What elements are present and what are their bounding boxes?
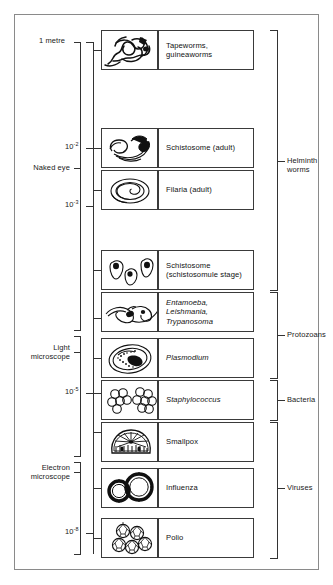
group-tick-bacteria [277, 400, 285, 401]
flagellate-protozoa-icon [102, 293, 158, 332]
illustration-box-influenza [101, 468, 158, 508]
scale-label-10-2: 10-2 [65, 142, 79, 151]
scale-label-10-3-mantissa: 10 [65, 200, 74, 209]
group-bracket-helminth [277, 30, 278, 290]
method-label-light-microscope: Light microscope [8, 343, 70, 361]
name-box-polio: Polio [158, 518, 254, 558]
organism-name-schistosome-adult: Schistosome (adult) [166, 143, 235, 152]
scale-label-10-8-exponent: -8 [74, 526, 79, 532]
connector-filaria [93, 190, 101, 191]
brick-virion-icon [102, 423, 158, 462]
organism-name-plasmodium: Plasmodium [166, 353, 209, 362]
group-label-protozoans: Protozoans [287, 330, 333, 339]
illustration-box-schistosome-adult [101, 128, 158, 168]
scale-label-10-2-exponent: -2 [74, 141, 79, 147]
connector-influenza [93, 488, 101, 489]
group-tick-helminth [277, 161, 285, 162]
connector-tapeworms [93, 50, 101, 51]
scale-label-10-5-mantissa: 10 [65, 387, 74, 396]
organism-name-influenza: Influenza [166, 483, 198, 492]
name-box-tapeworms: Tapeworms, guineaworms [158, 30, 254, 70]
name-box-entamoeba: Entamoeba, Leishmania, Trypanosoma [158, 292, 254, 332]
organism-name-smallpox: Smallpox [166, 437, 198, 446]
spiral-worm-icon [102, 171, 158, 210]
method-bracket-naked-eye-end [74, 330, 81, 331]
group-label-bacteria: Bacteria [287, 395, 333, 404]
illustration-box-filaria [101, 170, 158, 210]
enveloped-virion-icon [102, 469, 158, 508]
name-box-schistosomule: Schistosome (schistosomule stage) [158, 250, 254, 290]
organism-name-staphylococcus: Staphylococcus [166, 395, 221, 404]
organism-name-entamoeba: Entamoeba, Leishmania, Trypanosoma [166, 298, 213, 326]
group-tick-viruses [277, 488, 285, 489]
method-bracket-electron-start [74, 462, 81, 463]
illustration-box-smallpox [101, 422, 158, 462]
connector-smallpox [93, 432, 101, 433]
scale-label-10-3: 10-3 [65, 200, 79, 209]
group-bracket-helminth-bottom [270, 290, 278, 291]
group-bracket-helminth-top [270, 30, 278, 31]
scale-axis-line [93, 42, 94, 554]
schistosomule-cells-icon [102, 251, 158, 290]
tangled-worm-icon [102, 31, 158, 70]
method-bracket-light-start [74, 336, 81, 337]
organism-name-schistosomule: Schistosome (schistosomule stage) [166, 261, 242, 280]
scale-tick-1m [86, 42, 94, 43]
method-label-naked-eye: Naked eye [8, 163, 70, 172]
scale-label-1m: 1 metre [39, 36, 65, 45]
illustration-box-schistosomule [101, 250, 158, 290]
name-box-influenza: Influenza [158, 468, 254, 508]
coccus-cluster-icon [102, 381, 158, 420]
name-box-smallpox: Smallpox [158, 422, 254, 462]
method-bracket-light-end [74, 456, 81, 457]
illustration-box-tapeworms [101, 30, 158, 70]
method-bracket-electron-end [74, 554, 81, 555]
illustration-box-polio [101, 518, 158, 558]
icosahedral-virion-icon [102, 519, 158, 558]
group-bracket-viruses-top [270, 422, 278, 423]
group-bracket-bacteria-top [270, 380, 278, 381]
infected-red-cell-icon [102, 339, 158, 378]
group-bracket-protozoans-bottom [270, 378, 278, 379]
connector-plasmodium [93, 358, 101, 359]
illustration-box-plasmodium [101, 338, 158, 378]
illustration-box-staphylococcus [101, 380, 158, 420]
figure-canvas: Naked eye Light microscope Electron micr… [0, 0, 333, 585]
group-bracket-protozoans-top [270, 292, 278, 293]
organism-name-filaria: Filaria (adult) [166, 185, 212, 194]
scale-tick-10-3 [86, 206, 94, 207]
method-bracket-electron-microscope [80, 462, 81, 554]
scale-tick-10-8 [86, 533, 94, 534]
scale-label-10-5-exponent: -5 [74, 386, 79, 392]
scale-label-10-3-exponent: -3 [74, 199, 79, 205]
scale-label-10-2-mantissa: 10 [65, 142, 74, 151]
name-box-staphylococcus: Staphylococcus [158, 380, 254, 420]
name-box-plasmodium: Plasmodium [158, 338, 254, 378]
method-bracket-light-microscope [80, 336, 81, 456]
connector-polio [93, 538, 101, 539]
group-bracket-bacteria-bottom [270, 420, 278, 421]
illustration-box-trypanosoma [101, 292, 158, 332]
connector-schistosome-adult [93, 148, 101, 149]
organism-name-tapeworms: Tapeworms, guineaworms [166, 41, 212, 60]
scale-label-10-8-mantissa: 10 [65, 527, 74, 536]
name-box-schistosome-adult: Schistosome (adult) [158, 128, 254, 168]
group-tick-protozoans [277, 335, 285, 336]
method-tick-light [74, 352, 81, 353]
method-label-electron-microscope: Electron microscope [4, 463, 70, 481]
group-bracket-viruses-bottom [270, 558, 278, 559]
method-bracket-top-cap [74, 42, 81, 43]
name-box-filaria: Filaria (adult) [158, 170, 254, 210]
coiled-fluke-icon [102, 129, 158, 168]
method-bracket-naked-eye [80, 42, 81, 330]
connector-staphylococcus [93, 393, 101, 394]
group-label-helminth: Helminth worms [287, 156, 333, 174]
scale-label-10-5: 10-5 [65, 387, 79, 396]
connector-schistosomule [93, 270, 101, 271]
method-tick-naked-eye [74, 168, 81, 169]
connector-entamoeba [93, 318, 101, 319]
group-bracket-viruses [277, 422, 278, 558]
method-tick-electron [74, 472, 81, 473]
scale-label-10-8: 10-8 [65, 527, 79, 536]
organism-name-polio: Polio [166, 533, 183, 542]
